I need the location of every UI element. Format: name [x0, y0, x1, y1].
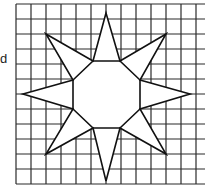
star-on-grid-diagram	[0, 0, 205, 191]
eight-point-star	[23, 13, 190, 181]
